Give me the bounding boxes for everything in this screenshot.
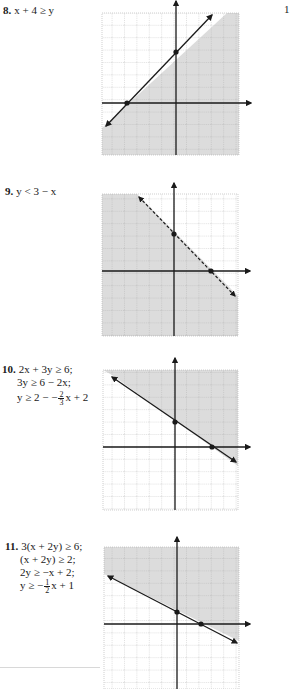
plotted-point bbox=[208, 268, 213, 273]
plotted-point bbox=[174, 609, 179, 614]
graphs-canvas bbox=[0, 0, 290, 689]
plotted-point bbox=[124, 100, 129, 105]
grid bbox=[104, 547, 239, 689]
grid bbox=[103, 370, 238, 510]
grid bbox=[102, 13, 239, 155]
plotted-point bbox=[172, 419, 177, 424]
plotted-point bbox=[198, 621, 203, 626]
plotted-point bbox=[173, 49, 178, 54]
graph-problem-11 bbox=[104, 537, 250, 689]
plotted-point bbox=[171, 231, 176, 236]
plotted-point bbox=[209, 444, 214, 449]
graph-problem-9 bbox=[102, 183, 250, 336]
graph-problem-10 bbox=[103, 358, 250, 510]
grid bbox=[102, 194, 238, 336]
graph-problem-8 bbox=[102, 1, 251, 155]
